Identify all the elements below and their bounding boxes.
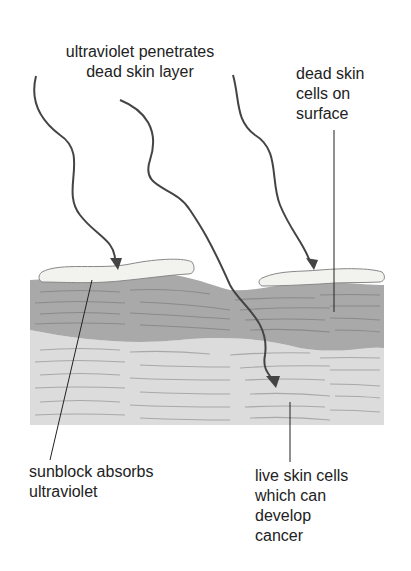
- label-line: cancer: [255, 526, 348, 546]
- dead-cells-label: dead skin cells on surface: [296, 64, 365, 124]
- sunblock-label: sunblock absorbs ultraviolet: [29, 462, 154, 502]
- uv-arrowhead-right: [306, 258, 318, 270]
- label-line: dead skin: [296, 64, 365, 84]
- uv-penetrates-label: ultraviolet penetrates dead skin layer: [40, 42, 240, 82]
- label-line: dead skin layer: [40, 62, 240, 82]
- label-line: ultraviolet: [29, 482, 154, 502]
- label-line: ultraviolet penetrates: [40, 42, 240, 62]
- label-line: cells on: [296, 84, 365, 104]
- label-line: surface: [296, 104, 365, 124]
- live-cells-label: live skin cells which can develop cancer: [255, 466, 348, 546]
- label-line: which can: [255, 486, 348, 506]
- label-line: sunblock absorbs: [29, 462, 154, 482]
- label-line: develop: [255, 506, 348, 526]
- label-line: live skin cells: [255, 466, 348, 486]
- sunblock-patch-right: [259, 269, 384, 286]
